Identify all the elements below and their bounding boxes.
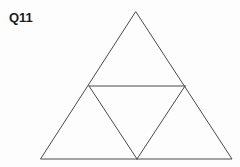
figure-container: Q11 — [0, 0, 240, 167]
triangle-diagram — [0, 0, 240, 167]
left-midsegment-line — [89, 86, 137, 159]
right-midsegment-line — [137, 86, 185, 159]
